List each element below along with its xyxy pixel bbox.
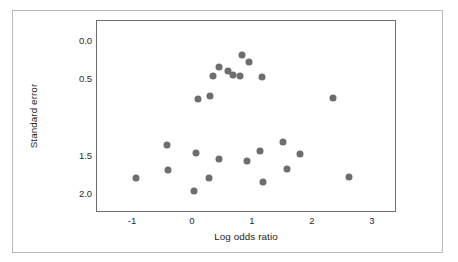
scatter-point bbox=[206, 174, 213, 181]
scatter-point bbox=[236, 72, 243, 79]
y-axis-tick-labels: 0.00.51.52.0 bbox=[56, 20, 92, 212]
x-tick-label: 3 bbox=[369, 216, 374, 226]
scatter-point bbox=[297, 151, 304, 158]
scatter-point bbox=[346, 174, 353, 181]
x-tick-label: 0 bbox=[189, 216, 194, 226]
y-axis-label: Standard error bbox=[29, 84, 39, 149]
scatter-point bbox=[246, 59, 253, 66]
scatter-point bbox=[191, 187, 198, 194]
scatter-point bbox=[133, 174, 140, 181]
scatter-point bbox=[229, 72, 236, 79]
scatter-point bbox=[164, 142, 171, 149]
scatter-point bbox=[244, 158, 251, 165]
x-axis-tick-labels: -10123 bbox=[96, 216, 396, 230]
scatter-point bbox=[215, 64, 222, 71]
scatter-point bbox=[215, 155, 222, 162]
scatter-point bbox=[193, 149, 200, 156]
scatter-point bbox=[194, 95, 201, 102]
scatter-point bbox=[329, 94, 336, 101]
scatter-point bbox=[239, 52, 246, 59]
scatter-point bbox=[207, 92, 214, 99]
x-axis-label: Log odds ratio bbox=[96, 232, 396, 242]
scatter-point bbox=[257, 148, 264, 155]
scatter-point bbox=[280, 139, 287, 146]
plot-frame bbox=[96, 20, 396, 212]
funnel-plot-figure: Standard error 0.00.51.52.0 -10123 Log o… bbox=[0, 0, 458, 262]
x-tick-label: -1 bbox=[128, 216, 136, 226]
scatter-point bbox=[260, 178, 267, 185]
scatter-point bbox=[164, 167, 171, 174]
scatter-plot-area bbox=[97, 21, 395, 211]
x-tick-label: 2 bbox=[309, 216, 314, 226]
y-tick-label: 2.0 bbox=[79, 189, 92, 199]
scatter-point bbox=[284, 165, 291, 172]
scatter-point bbox=[209, 72, 216, 79]
y-tick-label: 0.5 bbox=[79, 75, 92, 85]
y-tick-label: 1.5 bbox=[79, 151, 92, 161]
y-tick-label: 0.0 bbox=[79, 37, 92, 47]
scatter-point bbox=[259, 74, 266, 81]
x-tick-label: 1 bbox=[249, 216, 254, 226]
